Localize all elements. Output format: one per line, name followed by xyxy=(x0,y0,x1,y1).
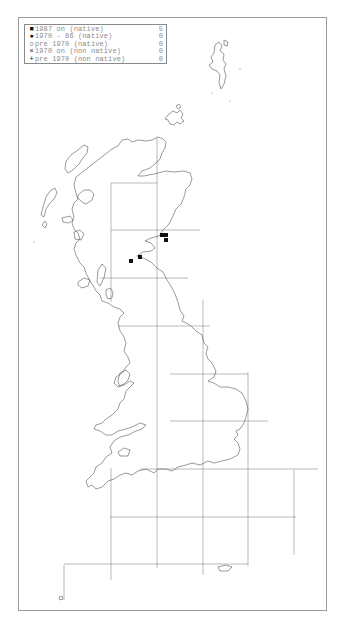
record-marker[interactable] xyxy=(138,255,142,259)
plus-icon: + xyxy=(28,56,35,63)
legend-count: 0 xyxy=(145,56,163,63)
legend-row-pre1970-nonnative: + pre 1970 (non native) 0 xyxy=(28,56,163,63)
distribution-map xyxy=(0,0,339,626)
grid-lines xyxy=(64,138,318,600)
record-marker[interactable] xyxy=(164,233,168,237)
record-marker[interactable] xyxy=(129,259,133,263)
coastline xyxy=(33,40,248,600)
map-legend: ■ 1987 on (native) 5 ● 1970 - 86 (native… xyxy=(24,24,167,64)
record-marker[interactable] xyxy=(160,233,164,237)
legend-label: pre 1970 (non native) xyxy=(35,56,145,63)
record-markers xyxy=(129,233,168,263)
record-marker[interactable] xyxy=(164,238,168,242)
